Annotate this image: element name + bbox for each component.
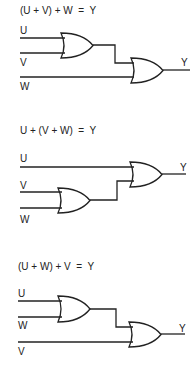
- equation-3: (U + W) + V = Y: [18, 262, 94, 272]
- equation-1: (U + V) + W = Y: [20, 6, 96, 16]
- input-label-u: U: [20, 26, 27, 36]
- input-label-w: W: [18, 321, 27, 331]
- input-label-u: U: [18, 289, 25, 299]
- or-gate-1a: [61, 33, 93, 58]
- input-label-v: V: [20, 181, 27, 191]
- input-label-w: W: [20, 82, 29, 92]
- or-gate-1b: [131, 58, 163, 83]
- input-label-v: V: [20, 58, 27, 68]
- logic-diagrams-canvas: [0, 0, 194, 370]
- or-gate-2b: [130, 162, 162, 187]
- input-label-u: U: [20, 154, 27, 164]
- diagram-1-wires: [20, 38, 190, 77]
- output-label-y: Y: [179, 324, 186, 334]
- equation-2: U + (V + W) = Y: [20, 126, 96, 136]
- output-label-y: Y: [181, 58, 188, 68]
- input-label-w: W: [20, 215, 29, 225]
- or-gate-3b: [129, 322, 161, 347]
- or-gate-3a: [58, 296, 90, 322]
- or-gate-2a: [58, 188, 90, 213]
- input-label-v: V: [18, 347, 25, 357]
- output-label-y: Y: [180, 163, 187, 173]
